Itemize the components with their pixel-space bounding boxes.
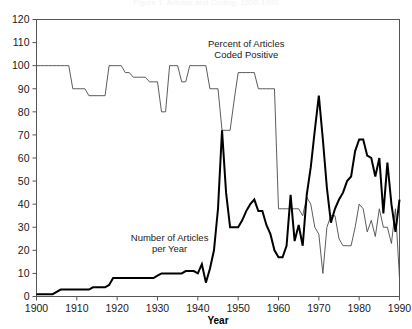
x-tick-label: 1960 xyxy=(267,302,291,314)
annotation-label: Number of Articles xyxy=(131,232,209,243)
x-tick-label: 1940 xyxy=(186,302,210,314)
y-axis-ticks xyxy=(33,20,37,297)
chart-root: Figure 1. Articles and Coding, 1900-1990… xyxy=(0,0,412,329)
annotation-label: Percent of Articles xyxy=(208,38,285,49)
series-number-of-articles xyxy=(37,96,400,295)
series-percent-coded-positive xyxy=(37,66,400,278)
x-axis-title: Year xyxy=(207,315,228,326)
x-tick-label: 1980 xyxy=(347,302,371,314)
y-tick-label: 90 xyxy=(18,83,30,95)
y-axis-tick-labels: 0102030405060708090100110120 xyxy=(12,13,30,302)
x-tick-label: 1990 xyxy=(388,302,412,314)
x-tick-label: 1900 xyxy=(25,302,49,314)
line-chart: 0102030405060708090100110120 19001910192… xyxy=(0,0,412,329)
y-tick-label: 120 xyxy=(12,13,30,25)
y-tick-label: 20 xyxy=(18,244,30,256)
x-tick-label: 1920 xyxy=(105,302,129,314)
y-tick-label: 80 xyxy=(18,106,30,118)
x-axis-ticks xyxy=(37,297,400,301)
y-tick-label: 70 xyxy=(18,129,30,141)
y-tick-label: 110 xyxy=(13,36,30,48)
annotation-label: per Year xyxy=(152,243,187,254)
annotation-label: Coded Positive xyxy=(214,49,278,60)
y-tick-label: 50 xyxy=(18,175,30,187)
y-tick-label: 10 xyxy=(18,267,30,279)
y-tick-label: 40 xyxy=(18,198,30,210)
y-tick-label: 0 xyxy=(24,290,30,302)
y-tick-label: 100 xyxy=(12,59,30,71)
y-tick-label: 60 xyxy=(18,152,30,164)
plot-frame xyxy=(37,20,400,297)
x-axis-tick-labels: 1900191019201930194019501960197019801990 xyxy=(25,302,412,314)
x-tick-label: 1970 xyxy=(307,302,331,314)
x-tick-label: 1930 xyxy=(146,302,170,314)
chart-annotations: Percent of ArticlesCoded PositiveNumber … xyxy=(131,38,285,254)
x-tick-label: 1910 xyxy=(65,302,89,314)
x-tick-label: 1950 xyxy=(226,302,250,314)
y-tick-label: 30 xyxy=(18,221,30,233)
